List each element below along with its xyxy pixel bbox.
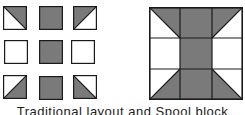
piece-plain-right [71, 40, 95, 64]
piece-hst-top-right [73, 6, 97, 30]
piece-plain-left [4, 40, 28, 64]
piece-solid-center [39, 40, 63, 64]
piece-solid-bottom [39, 76, 63, 100]
piece-hst-bottom-right [73, 75, 97, 99]
piece-hst-top-left [3, 6, 27, 30]
spool-block [149, 7, 243, 100]
piece-hst-bottom-left [3, 75, 27, 99]
figure-caption: Traditional layout and Spool block [0, 104, 245, 115]
piece-solid-top [39, 6, 63, 30]
